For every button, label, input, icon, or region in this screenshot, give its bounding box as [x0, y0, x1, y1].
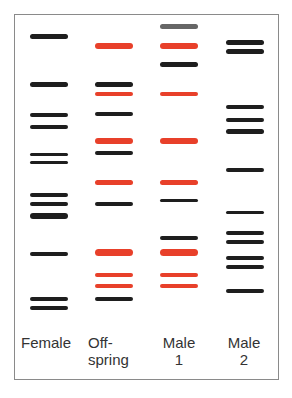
band-black [226, 129, 264, 134]
band-black [30, 252, 68, 256]
band-black [30, 113, 68, 117]
band-red [160, 43, 198, 49]
band-red [160, 249, 198, 256]
band-red [160, 180, 198, 185]
band-black [226, 168, 264, 172]
band-red [160, 92, 198, 96]
band-black [30, 202, 68, 206]
band-red [95, 249, 133, 256]
band-red [160, 273, 198, 277]
band-black [226, 265, 264, 269]
label-line1: Off- [88, 334, 140, 351]
label-line2: 1 [156, 351, 202, 368]
band-black [30, 161, 68, 164]
lane-label-male2: Male2 [222, 334, 266, 368]
band-red [95, 273, 133, 277]
band-black [226, 289, 264, 293]
band-red [95, 138, 133, 144]
band-red [95, 180, 133, 185]
band-black [30, 213, 68, 219]
band-black [30, 297, 68, 301]
lane-label-female: Female [20, 334, 72, 351]
band-red [95, 284, 133, 288]
lane-label-offspring: Off-spring [88, 334, 140, 368]
band-black [226, 49, 264, 54]
band-black [226, 240, 264, 244]
band-gray [160, 24, 198, 29]
band-black [160, 199, 198, 202]
lane-label-male1: Male1 [156, 334, 202, 368]
band-black [30, 193, 68, 197]
band-black [226, 256, 264, 260]
band-black [95, 82, 133, 87]
band-black [95, 112, 133, 116]
label-line1: Male [156, 334, 202, 351]
band-black [226, 211, 264, 214]
band-black [226, 118, 264, 122]
band-black [95, 297, 133, 301]
band-black [30, 306, 68, 310]
label-line2: spring [88, 351, 140, 368]
band-black [226, 40, 264, 45]
gel-frame [14, 14, 279, 380]
band-black [30, 34, 68, 39]
band-black [30, 82, 68, 87]
band-red [95, 43, 133, 49]
label-line1: Female [20, 334, 72, 351]
band-red [160, 138, 198, 144]
band-black [226, 105, 264, 109]
band-red [95, 92, 133, 96]
label-line1: Male [222, 334, 266, 351]
band-black [95, 202, 133, 206]
band-black [160, 62, 198, 67]
band-black [226, 231, 264, 235]
band-black [160, 236, 198, 240]
band-black [95, 151, 133, 155]
band-black [30, 153, 68, 156]
band-red [160, 284, 198, 288]
label-line2: 2 [222, 351, 266, 368]
band-black [30, 125, 68, 129]
